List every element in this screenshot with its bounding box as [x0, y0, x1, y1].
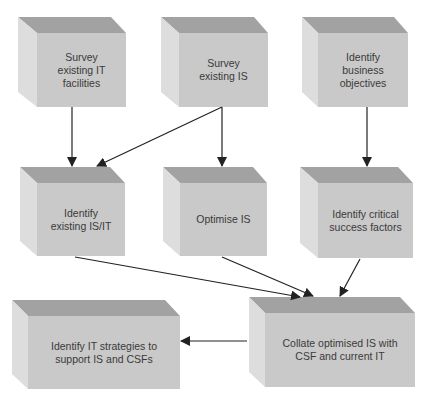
edge-identify-existing-to-collate [75, 257, 300, 297]
label-optimise-is: Optimise IS [180, 183, 267, 256]
edge-survey-is-to-identify-existing [97, 107, 222, 166]
label-identify-strategies: Identify IT strategies to support IS and… [28, 316, 180, 389]
edge-optimise-is-to-collate [222, 257, 313, 296]
edge-csf-to-collate [340, 259, 360, 296]
label-collate: Collate optimised IS with CSF and curren… [265, 313, 415, 387]
label-identify-objectives: Identify business objectives [318, 33, 408, 107]
label-survey-it: Survey existing IT facilities [37, 33, 126, 107]
label-identify-csf: Identify critical success factors [318, 183, 413, 258]
label-identify-existing: Identify existing IS/IT [37, 183, 125, 256]
label-survey-is: Survey existing IS [179, 33, 268, 107]
